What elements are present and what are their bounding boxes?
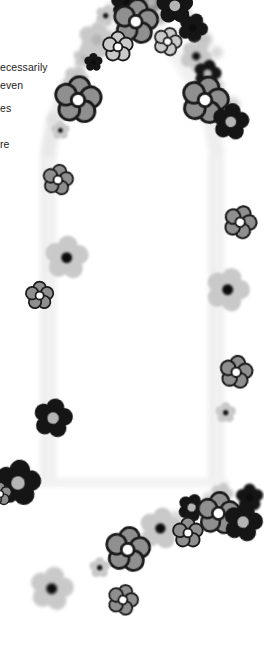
- body-text-column: ecessarily even es re: [0, 0, 60, 200]
- flower-graphic: [207, 98, 255, 146]
- flower-graphic: [40, 231, 94, 285]
- flower-graphic: [197, 259, 259, 321]
- flower-graphic: [24, 280, 55, 311]
- flower-graphic: [23, 560, 82, 619]
- body-text-line: es: [0, 103, 11, 114]
- flower-graphic: [217, 199, 264, 246]
- flower-graphic: [214, 401, 237, 424]
- flower-graphic: [171, 516, 205, 550]
- body-text-line: re: [0, 139, 10, 150]
- body-text-line: even: [0, 80, 23, 91]
- body-text-line: ecessarily: [0, 62, 48, 73]
- flower-graphic: [215, 351, 257, 393]
- flower-graphic: [88, 556, 111, 579]
- flower-graphic: [0, 481, 13, 507]
- page-canvas: ecessarily even es re: [0, 0, 264, 645]
- flower-graphic: [101, 30, 135, 64]
- flower-graphic: [27, 392, 79, 444]
- flower-graphic: [102, 579, 145, 622]
